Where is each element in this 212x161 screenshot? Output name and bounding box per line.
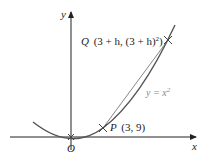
point-p-label: P (3, 9) <box>109 121 145 134</box>
chord-pq <box>103 40 168 128</box>
origin-label: O <box>67 142 75 154</box>
y-axis-label: y <box>60 8 66 20</box>
tangent-chord-diagram: y x O P (3, 9) Q (3 + h, (3 + h)2) y = x… <box>0 0 212 161</box>
curve-equation-label: y = x2 <box>145 86 171 98</box>
point-p-marker <box>99 124 107 132</box>
x-axis-label: x <box>191 140 197 152</box>
point-q-label: Q (3 + h, (3 + h)2) <box>81 35 163 48</box>
point-q-marker <box>164 36 172 44</box>
